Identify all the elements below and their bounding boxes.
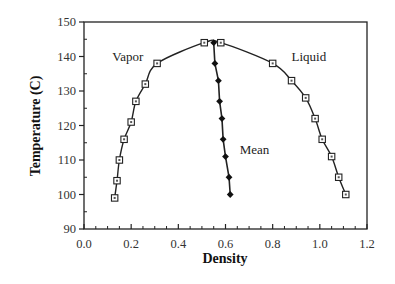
diamond-marker (220, 136, 227, 143)
y-axis-title: Temperature (C) (28, 75, 44, 176)
annotation-vapor: Vapor (112, 49, 144, 64)
diamond-marker (226, 174, 233, 181)
marker-dot (331, 156, 333, 158)
marker-dot (118, 159, 120, 161)
marker-dot (156, 62, 158, 64)
y-tick-label: 100 (57, 188, 76, 202)
marker-dot (203, 42, 205, 44)
marker-dot (314, 118, 316, 120)
marker-dot (305, 97, 307, 99)
diamond-marker (219, 115, 226, 122)
marker-dot (220, 42, 222, 44)
marker-dot (291, 80, 293, 82)
marker-dot (272, 62, 274, 64)
x-tick-label: 0.0 (76, 237, 92, 251)
y-tick-label: 120 (57, 119, 76, 133)
x-axis-title: Density (202, 251, 247, 266)
marker-dot (345, 194, 347, 196)
x-tick-label: 0.2 (123, 237, 139, 251)
diamond-marker (216, 98, 223, 105)
diamond-marker (211, 60, 218, 67)
x-tick-label: 0.6 (218, 237, 234, 251)
coexistence-curve (115, 40, 346, 198)
y-tick-label: 130 (57, 84, 76, 98)
y-tick-label: 150 (57, 15, 76, 29)
y-tick-label: 90 (64, 222, 77, 236)
x-tick-label: 0.8 (265, 237, 281, 251)
diamond-marker (215, 77, 222, 84)
marker-dot (123, 138, 125, 140)
marker-dot (338, 176, 340, 178)
marker-dot (321, 138, 323, 140)
y-axis-ticks: 90100110120130140150 (57, 15, 87, 236)
coexistence-chart: 90100110120130140150 0.00.20.40.60.81.01… (0, 0, 395, 284)
annotation-liquid: Liquid (292, 49, 327, 64)
data-series (111, 39, 349, 201)
marker-dot (135, 100, 137, 102)
x-tick-label: 0.4 (171, 237, 187, 251)
x-axis-ticks: 0.00.20.40.60.81.01.2 (76, 224, 375, 251)
marker-dot (144, 83, 146, 85)
x-tick-label: 1.2 (359, 237, 375, 251)
diamond-marker (227, 191, 234, 198)
marker-dot (130, 121, 132, 123)
x-tick-label: 1.0 (312, 237, 328, 251)
marker-dot (114, 197, 116, 199)
annotation-mean: Mean (240, 142, 270, 157)
y-tick-label: 140 (57, 50, 76, 64)
diamond-marker (222, 153, 229, 160)
marker-dot (116, 180, 118, 182)
y-tick-label: 110 (58, 153, 76, 167)
